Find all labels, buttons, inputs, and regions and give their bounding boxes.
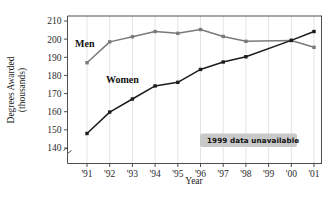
x-tick-label: '99 bbox=[263, 169, 274, 179]
chart-canvas: 140150160170180190200210 '91'92'93'94'95… bbox=[0, 0, 333, 203]
data-point-marker bbox=[290, 39, 293, 42]
data-point-marker bbox=[153, 30, 156, 33]
y-axis-title: Degrees Awarded (thousands) bbox=[6, 56, 28, 123]
data-point-marker bbox=[199, 68, 202, 71]
data-point-marker bbox=[176, 32, 179, 35]
data-point-marker bbox=[85, 132, 88, 135]
data-point-marker bbox=[108, 40, 111, 43]
x-axis-title: Year bbox=[185, 176, 203, 186]
data-point-marker bbox=[222, 35, 225, 38]
x-tick-label: '97 bbox=[218, 169, 229, 179]
y-tick-label: 170 bbox=[47, 89, 62, 99]
x-tick-label: '00 bbox=[286, 169, 297, 179]
data-point-marker bbox=[108, 110, 111, 113]
y-axis-title-line1: Degrees Awarded bbox=[6, 56, 16, 123]
y-tick-label: 190 bbox=[47, 53, 62, 63]
data-point-marker bbox=[176, 81, 179, 84]
y-axis-title-line2: (thousands) bbox=[17, 68, 28, 112]
y-tick-label: 200 bbox=[47, 35, 62, 45]
series-label-men: Men bbox=[75, 38, 95, 49]
series-label-women: Women bbox=[106, 74, 139, 85]
x-tick-label: '92 bbox=[104, 169, 115, 179]
degrees-awarded-line-chart: 140150160170180190200210 '91'92'93'94'95… bbox=[0, 0, 333, 203]
data-point-marker bbox=[199, 28, 202, 31]
y-tick-label: 150 bbox=[47, 125, 62, 135]
x-tick-label: '98 bbox=[240, 169, 251, 179]
cropped-title-remnant bbox=[70, 0, 250, 7]
y-tick-label: 160 bbox=[47, 107, 62, 117]
data-point-marker bbox=[312, 30, 315, 33]
x-tick-label: '93 bbox=[127, 169, 138, 179]
y-tick-label: 180 bbox=[47, 71, 62, 81]
data-point-marker bbox=[131, 97, 134, 100]
data-point-marker bbox=[312, 46, 315, 49]
x-tick-label: '91 bbox=[81, 169, 92, 179]
x-tick-label: '95 bbox=[172, 169, 183, 179]
y-tick-label: 210 bbox=[47, 16, 62, 26]
data-point-marker bbox=[85, 61, 88, 64]
annotation-1999-data-unavailable: 1999 data unavailable bbox=[200, 134, 299, 148]
y-axis-break-icon bbox=[64, 148, 72, 164]
callout-label: 1999 data unavailable bbox=[207, 136, 299, 145]
y-axis: 140150160170180190200210 bbox=[47, 16, 67, 153]
data-point-marker bbox=[153, 84, 156, 87]
data-point-marker bbox=[244, 40, 247, 43]
y-tick-label: 140 bbox=[47, 143, 62, 153]
x-tick-label: '94 bbox=[149, 169, 160, 179]
x-tick-label: '01 bbox=[308, 169, 319, 179]
data-point-marker bbox=[222, 60, 225, 63]
data-point-marker bbox=[244, 55, 247, 58]
data-point-marker bbox=[131, 35, 134, 38]
